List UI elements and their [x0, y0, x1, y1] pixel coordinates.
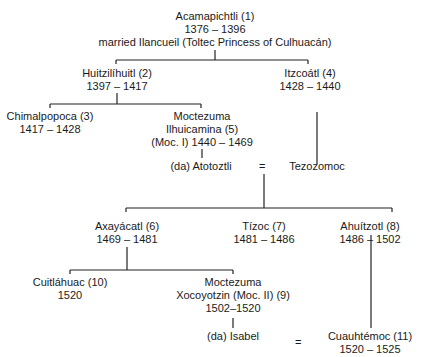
- node-name: Tízoc (7): [233, 220, 294, 233]
- node-name: Axayácatl (6): [95, 220, 159, 233]
- node-years: (Moc. I) 1440 – 1469: [151, 136, 253, 149]
- node-years: 1469 – 1481: [95, 233, 159, 246]
- node-chimalpopoca: Chimalpopoca (3) 1417 – 1428: [7, 110, 94, 136]
- node-tizoc: Tízoc (7) 1481 – 1486: [233, 220, 294, 246]
- node-name-cont: Ilhuicamina (5): [151, 123, 253, 136]
- node-years: 1376 – 1396: [99, 23, 332, 36]
- node-cuauhtemoc: Cuauhtémoc (11) 1520 – 1525: [328, 330, 412, 356]
- node-name: (da) Atotoztli: [170, 160, 231, 173]
- node-huitzilihuitl: Huitzilíhuitl (2) 1397 – 1417: [82, 67, 152, 93]
- node-years: 1486 – 1502: [339, 233, 400, 246]
- node-years: 1417 – 1428: [7, 123, 94, 136]
- node-years: 1428 – 1440: [279, 80, 340, 93]
- node-years: 1520: [33, 289, 108, 302]
- node-name: Acamapichtli (1): [99, 10, 332, 23]
- node-axayacatl: Axayácatl (6) 1469 – 1481: [95, 220, 159, 246]
- node-name: Ahuítzotl (8): [339, 220, 400, 233]
- node-tezozomoc: Tezozomoc: [289, 160, 345, 173]
- node-name: Itzcoátl (4): [279, 67, 340, 80]
- node-moctezuma-ii: Moctezuma Xocoyotzin (Moc. II) (9) 1502–…: [176, 276, 290, 315]
- marriage-symbol: =: [295, 336, 301, 349]
- node-name: Cuauhtémoc (11): [328, 330, 412, 343]
- node-name: Moctezuma: [176, 276, 290, 289]
- node-name: Cuitláhuac (10): [33, 276, 108, 289]
- node-name-cont: Xocoyotzin (Moc. II) (9): [176, 289, 290, 302]
- node-name: Tezozomoc: [289, 160, 345, 173]
- node-itzcoatl: Itzcoátl (4) 1428 – 1440: [279, 67, 340, 93]
- node-acamapichtli: Acamapichtli (1) 1376 – 1396 married Ila…: [99, 10, 332, 49]
- node-name: Huitzilíhuitl (2): [82, 67, 152, 80]
- node-moctezuma-i: Moctezuma Ilhuicamina (5) (Moc. I) 1440 …: [151, 110, 253, 149]
- node-cuitlahuac: Cuitláhuac (10) 1520: [33, 276, 108, 302]
- marriage-symbol: =: [259, 160, 265, 173]
- node-ahuitzotl: Ahuítzotl (8) 1486 – 1502: [339, 220, 400, 246]
- node-isabel: (da) Isabel: [207, 330, 259, 343]
- node-years: 1502–1520: [176, 302, 290, 315]
- node-atotoztli: (da) Atotoztli: [170, 160, 231, 173]
- node-years: 1397 – 1417: [82, 80, 152, 93]
- node-years: 1481 – 1486: [233, 233, 294, 246]
- node-name: (da) Isabel: [207, 330, 259, 343]
- node-name: Chimalpopoca (3): [7, 110, 94, 123]
- node-name: Moctezuma: [151, 110, 253, 123]
- node-years: 1520 – 1525: [328, 343, 412, 356]
- node-note: married Ilancueil (Toltec Princess of Cu…: [99, 36, 332, 49]
